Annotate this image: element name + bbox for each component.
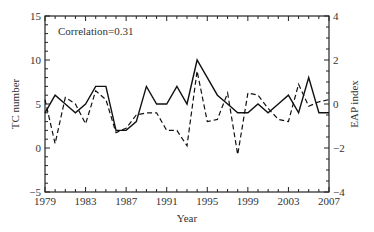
- y-axis-right-title: EAP index: [348, 80, 360, 128]
- y-axis-left-title: TC number: [9, 78, 21, 129]
- y-left-tick-label: −5: [29, 186, 41, 198]
- y-left-tick-label: 0: [36, 142, 42, 154]
- eap-index-line: [45, 71, 329, 155]
- y-right-tick-label: 2: [333, 54, 339, 66]
- series-group: [45, 60, 329, 155]
- x-tick-label: 1983: [75, 195, 98, 207]
- y-right-tick-label: 0: [333, 98, 339, 110]
- y-right-tick-label: −4: [333, 186, 345, 198]
- correlation-annotation: Correlation=0.31: [58, 25, 134, 37]
- y-right-tick-label: −2: [333, 142, 345, 154]
- x-tick-label: 1999: [237, 195, 260, 207]
- x-axis-title: Year: [177, 212, 198, 224]
- tc-number-line: [45, 60, 329, 130]
- dual-axis-line-chart: 19791983198719911995199920032007−5051015…: [0, 0, 374, 232]
- x-tick-label: 1991: [156, 195, 178, 207]
- tick-labels: 19791983198719911995199920032007−5051015…: [29, 10, 345, 207]
- x-tick-label: 2003: [277, 195, 300, 207]
- y-left-tick-label: 10: [30, 54, 42, 66]
- y-right-tick-label: 4: [333, 10, 339, 22]
- x-tick-label: 1987: [115, 195, 138, 207]
- y-left-tick-label: 5: [36, 98, 42, 110]
- y-left-tick-label: 15: [30, 10, 42, 22]
- x-tick-label: 1995: [196, 195, 219, 207]
